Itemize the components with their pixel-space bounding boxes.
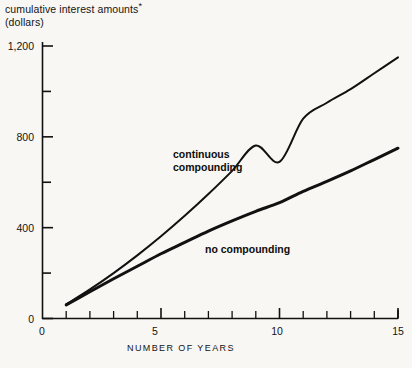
axes-group	[42, 42, 398, 319]
x-axis-ticks	[66, 308, 398, 319]
interest-growth-chart: cumulative interest amounts* (dollars) 1…	[0, 0, 412, 368]
series-curve-continuous-compounding	[66, 57, 398, 304]
y-axis-ticks	[43, 46, 54, 319]
chart-plot-area	[0, 0, 412, 368]
